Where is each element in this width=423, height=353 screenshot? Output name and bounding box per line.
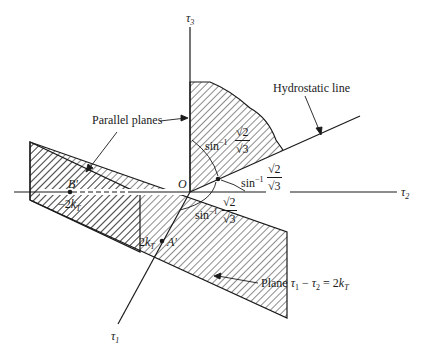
tau2-label: τ2 (401, 186, 409, 201)
angle-label-2-func: sin−1 (241, 176, 264, 189)
plane-equation-label: Plane τ1 − τ2 = 2kT (261, 277, 349, 292)
point-a-prime (160, 239, 165, 244)
angle-label-1-frac: √2√3 (235, 126, 250, 155)
a-prime-label: A' (167, 236, 177, 248)
hydrostatic-line-label: Hydrostatic line (273, 82, 350, 94)
b-prime-label: B' (68, 178, 78, 190)
tau1-label: τ1 (111, 330, 119, 345)
plane-tau1-minus-tau2 (30, 142, 287, 318)
hydrostatic-point (216, 177, 221, 182)
parallel-planes-label: Parallel planes (92, 114, 162, 126)
angle-label-1-func: sin−1 (205, 139, 228, 152)
stress-space-diagram (0, 0, 423, 353)
origin-label: O (178, 178, 187, 190)
angle-label-2-frac: √2√3 (267, 163, 282, 192)
angle-label-3-frac: √2√3 (222, 196, 237, 225)
a-prime-value: 2kT (139, 236, 155, 251)
angle-label-3-func: sin−1 (195, 208, 218, 221)
b-prime-value: −2kT (58, 198, 81, 213)
tau3-label: τ3 (186, 12, 194, 27)
